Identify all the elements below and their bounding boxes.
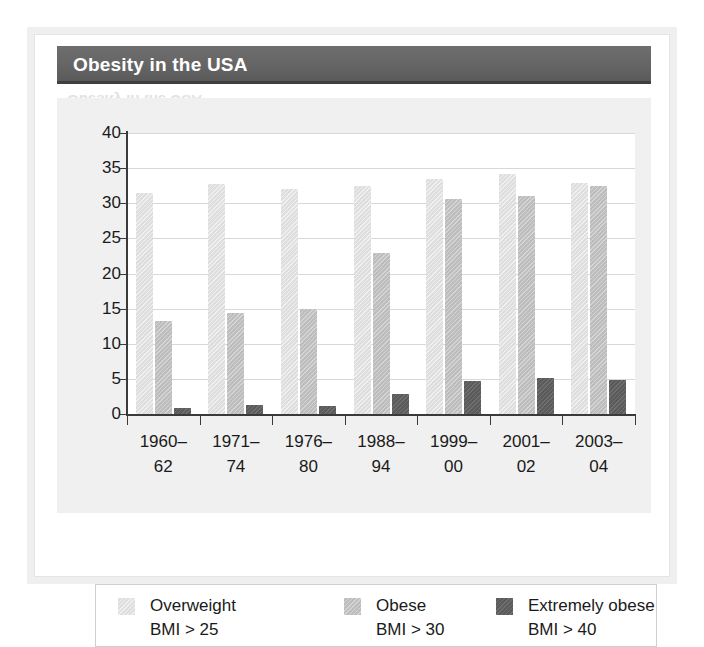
x-axis-tick-label-line: 80: [272, 455, 345, 480]
x-axis-tick-label-line: 1999–: [417, 430, 490, 455]
bar-obese: [155, 321, 172, 414]
page-title: Obesity in the USA: [73, 54, 248, 76]
x-axis-tick-label-line: 2001–: [490, 430, 563, 455]
bar-extreme: [537, 378, 554, 414]
x-axis-tick-label: 1971–74: [200, 430, 273, 479]
x-axis-tick-mark: [635, 416, 636, 425]
x-axis-tick-label-line: 94: [345, 455, 418, 480]
x-axis-tick-label: 2003–04: [562, 430, 635, 479]
x-axis-tick-mark: [272, 416, 273, 425]
bar-overweight: [136, 193, 153, 414]
x-axis-tick-mark: [200, 416, 201, 425]
y-axis-tick-mark: [120, 168, 127, 169]
x-axis-tick-label-line: 00: [417, 455, 490, 480]
bar-group: [571, 133, 626, 414]
legend-label: Obese: [376, 596, 426, 616]
bar-group: [426, 133, 481, 414]
y-axis-tick-label: 15: [61, 299, 121, 319]
legend-label: Overweight: [150, 596, 236, 616]
bar-group: [208, 133, 263, 414]
x-axis-tick-label: 2001–02: [490, 430, 563, 479]
y-axis-tick-mark: [120, 133, 127, 134]
bar-overweight: [499, 174, 516, 414]
bar-obese: [445, 199, 462, 414]
y-axis-tick-label: 40: [61, 123, 121, 143]
y-axis-tick-label: 30: [61, 193, 121, 213]
legend-sublabel: BMI > 30: [376, 620, 445, 640]
x-axis-tick-label-line: 62: [127, 455, 200, 480]
y-axis-tick-mark: [120, 414, 127, 415]
y-axis-tick-label: 10: [61, 334, 121, 354]
bar-obese: [590, 186, 607, 414]
bar-overweight: [281, 189, 298, 414]
y-axis-tick-mark: [120, 309, 127, 310]
y-axis-tick-mark: [120, 344, 127, 345]
x-axis-tick-label-line: 1988–: [345, 430, 418, 455]
bar-obese: [227, 313, 244, 414]
x-axis-tick-mark: [417, 416, 418, 425]
y-axis-tick-label: 35: [61, 158, 121, 178]
legend-swatch-obese: [344, 598, 361, 615]
x-axis-tick-label-line: 04: [562, 455, 635, 480]
bar-overweight: [354, 186, 371, 414]
x-axis-tick-mark: [345, 416, 346, 425]
bar-extreme: [392, 394, 409, 414]
legend-sublabel: BMI > 40: [528, 620, 597, 640]
x-axis-tick-label-line: 1976–: [272, 430, 345, 455]
bar-overweight: [571, 183, 588, 414]
y-axis-tick-mark: [120, 379, 127, 380]
x-axis-tick-label-line: 02: [490, 455, 563, 480]
x-axis-tick-label: 1960–62: [127, 430, 200, 479]
bar-group: [499, 133, 554, 414]
bar-group: [354, 133, 409, 414]
bar-overweight: [208, 184, 225, 414]
legend-swatch-extreme: [496, 598, 513, 615]
y-axis-tick-mark: [120, 203, 127, 204]
bar-extreme: [464, 381, 481, 414]
plot-area: [127, 133, 635, 414]
bar-overweight: [426, 179, 443, 414]
chart-container: 0510152025303540 1960–621971–741976–8019…: [57, 98, 651, 513]
y-axis-tick-label: 5: [61, 369, 121, 389]
x-axis-tick-label-line: 1971–: [200, 430, 273, 455]
x-axis-tick-mark: [490, 416, 491, 425]
bar-obese: [373, 253, 390, 414]
x-axis-tick-label-line: 74: [200, 455, 273, 480]
chart-legend: OverweightBMI > 25ObeseBMI > 30Extremely…: [95, 584, 657, 647]
bar-extreme: [609, 380, 626, 414]
x-axis-tick-label: 1976–80: [272, 430, 345, 479]
bar-extreme: [246, 405, 263, 414]
y-axis-labels: 0510152025303540: [57, 98, 121, 513]
x-axis-line: [126, 414, 636, 416]
bar-extreme: [319, 406, 336, 414]
y-axis-tick-mark: [120, 274, 127, 275]
x-axis-tick-label-line: 2003–: [562, 430, 635, 455]
x-axis-tick-label-line: 1960–: [127, 430, 200, 455]
bar-obese: [518, 196, 535, 414]
x-axis-tick-mark: [127, 416, 128, 425]
legend-label: Extremely obese: [528, 596, 655, 616]
bar-obese: [300, 309, 317, 414]
x-axis-tick-label: 1988–94: [345, 430, 418, 479]
figure-frame-inner: Obesity in the USA Obesity in the USA 05…: [34, 34, 670, 577]
x-axis-tick-mark: [562, 416, 563, 425]
y-axis-tick-label: 25: [61, 228, 121, 248]
figure-frame: Obesity in the USA Obesity in the USA 05…: [27, 27, 677, 584]
bar-group: [281, 133, 336, 414]
y-axis-tick-mark: [120, 238, 127, 239]
y-axis-tick-label: 0: [61, 404, 121, 424]
legend-sublabel: BMI > 25: [150, 620, 219, 640]
chart-title-band: Obesity in the USA: [57, 46, 651, 84]
y-axis-tick-label: 20: [61, 264, 121, 284]
legend-swatch-overweight: [118, 598, 135, 615]
x-axis-tick-label: 1999–00: [417, 430, 490, 479]
bar-group: [136, 133, 191, 414]
